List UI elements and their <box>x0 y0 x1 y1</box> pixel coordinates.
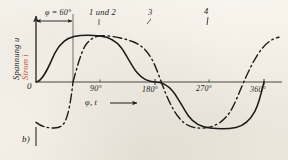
figure-panel: Spannung u Strom i 0 φ = 60° 1 und 2 3 4… <box>0 0 288 160</box>
x-tick-label-270: 270° <box>196 85 212 93</box>
leader-3 <box>147 19 151 24</box>
origin-label: 0 <box>27 82 32 91</box>
x-tick-label-360: 360° <box>250 86 266 94</box>
panel-label: b) <box>22 135 30 144</box>
x-axis-label: φ, t <box>85 98 97 107</box>
curve-label-3: 3 <box>148 8 152 17</box>
x-tick-label-180: 180° <box>142 86 158 94</box>
curve-label-4: 4 <box>204 7 208 16</box>
phase-angle-label: φ = 60° <box>45 9 71 17</box>
curve-label-1-und-2: 1 und 2 <box>89 8 116 17</box>
leader-4 <box>207 17 208 25</box>
y-axis-label: Spannung u Strom i <box>12 38 29 80</box>
x-tick-label-90: 90° <box>90 85 102 93</box>
y-axis-label-current: Strom i <box>20 54 30 80</box>
sine-wave-plot <box>0 0 288 160</box>
